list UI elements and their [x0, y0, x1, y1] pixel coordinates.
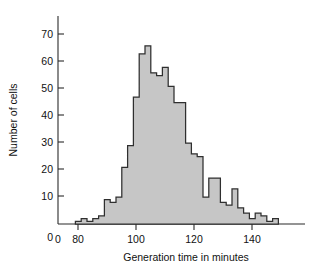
y-tick-label-30: 30 — [41, 136, 53, 148]
y-tick-label-40: 40 — [41, 109, 53, 121]
y-tick-label-70: 70 — [41, 28, 53, 40]
histogram-bars — [75, 46, 278, 224]
y-tick-label-20: 20 — [41, 163, 53, 175]
y-tick-label-0: 0 — [47, 231, 53, 243]
y-tick-label-50: 50 — [41, 82, 53, 94]
x-tick-label-120: 120 — [185, 233, 203, 245]
x-tick-label-140: 140 — [243, 233, 261, 245]
y-axis-title: Number of cells — [7, 84, 19, 157]
histogram-figure: Number of cells 70 60 50 40 30 20 10 0 8 — [0, 0, 315, 275]
x-axis-title: Generation time in minutes — [123, 251, 248, 263]
x-tick-label-0: 0 — [55, 233, 61, 245]
x-tick-label-100: 100 — [127, 233, 145, 245]
histogram-plot: Number of cells 70 60 50 40 30 20 10 0 8 — [0, 0, 315, 275]
y-axis-ticks: 70 60 50 40 30 20 10 0 — [41, 28, 64, 243]
x-tick-label-80: 80 — [72, 233, 84, 245]
x-axis-ticks: 80 100 120 140 0 — [55, 224, 261, 245]
y-tick-label-60: 60 — [41, 55, 53, 67]
y-tick-label-10: 10 — [41, 190, 53, 202]
